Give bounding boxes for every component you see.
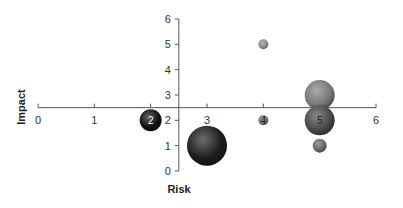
y-tick-label: 0 [165,165,171,177]
bubble-point: 2 [140,109,162,131]
x-tick-label: 1 [91,114,97,126]
x-tick-label: 6 [373,114,379,126]
chart-canvas: 01234560123456 245 Risk Impact [0,0,403,208]
bubble [187,126,227,166]
bubble-point: 4 [258,115,268,126]
bubble-chart: 01234560123456 245 Risk Impact [0,0,403,208]
y-tick-label: 3 [165,89,171,101]
x-tick-label: 3 [204,114,210,126]
y-tick-label: 5 [165,38,171,50]
bubble-label: 4 [261,115,267,126]
y-tick-label: 6 [165,13,171,25]
y-tick-label: 2 [165,114,171,126]
y-axis-title: Impact [15,89,27,125]
x-tick-label: 0 [35,114,41,126]
bubble [313,139,327,153]
bubble-label: 5 [317,115,323,126]
y-tick-label: 1 [165,140,171,152]
y-tick-label: 4 [165,64,171,76]
bubble-point [258,39,268,49]
bubble-label: 2 [148,115,154,126]
bubble [258,39,268,49]
bubble-point: 5 [305,105,335,135]
bubble-point [313,139,327,153]
bubble-point [187,126,227,166]
x-axis-title: Risk [167,183,191,195]
